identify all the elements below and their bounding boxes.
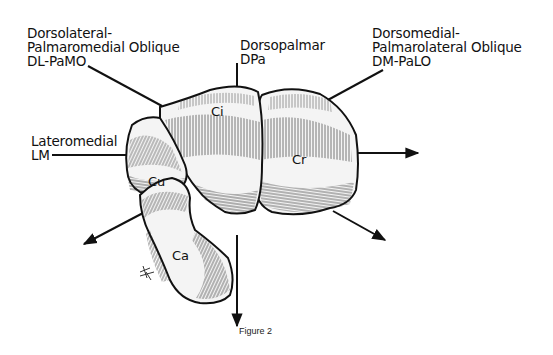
lm-name: Lateromedial bbox=[31, 134, 117, 148]
dmpalo-line-out bbox=[333, 211, 385, 240]
artist-mark bbox=[140, 266, 154, 280]
bone-label-ca: Ca bbox=[172, 248, 189, 263]
dmpalo-name-line1: Dorsomedial- bbox=[372, 26, 522, 40]
lm-label: Lateromedial LM bbox=[31, 134, 117, 162]
lm-abbr: LM bbox=[31, 148, 117, 162]
dmpalo-label: Dorsomedial- Palmarolateral Oblique DM-P… bbox=[372, 26, 522, 68]
dlpamo-name-line2: Palmaromedial Oblique bbox=[27, 40, 180, 54]
dlpamo-abbr: DL-PaMO bbox=[27, 54, 180, 68]
dpa-abbr: DPa bbox=[240, 52, 325, 66]
dlpamo-label: Dorsolateral- Palmaromedial Oblique DL-P… bbox=[27, 26, 180, 68]
dmpalo-name-line2: Palmarolateral Oblique bbox=[372, 40, 522, 54]
dpa-name: Dorsopalmar bbox=[240, 38, 325, 52]
dlpamo-name-line1: Dorsolateral- bbox=[27, 26, 180, 40]
dlpamo-line-in bbox=[88, 66, 162, 106]
dmpalo-line-in bbox=[326, 70, 383, 101]
dpa-label: Dorsopalmar DPa bbox=[240, 38, 325, 66]
bone-label-cu: Cu bbox=[148, 174, 165, 189]
dlpamo-line-out bbox=[84, 213, 143, 244]
bone-label-ci: Ci bbox=[211, 104, 224, 119]
dmpalo-abbr: DM-PaLO bbox=[372, 54, 522, 68]
figure-caption: Figure 2 bbox=[239, 326, 272, 336]
bone-label-cr: Cr bbox=[292, 152, 306, 167]
